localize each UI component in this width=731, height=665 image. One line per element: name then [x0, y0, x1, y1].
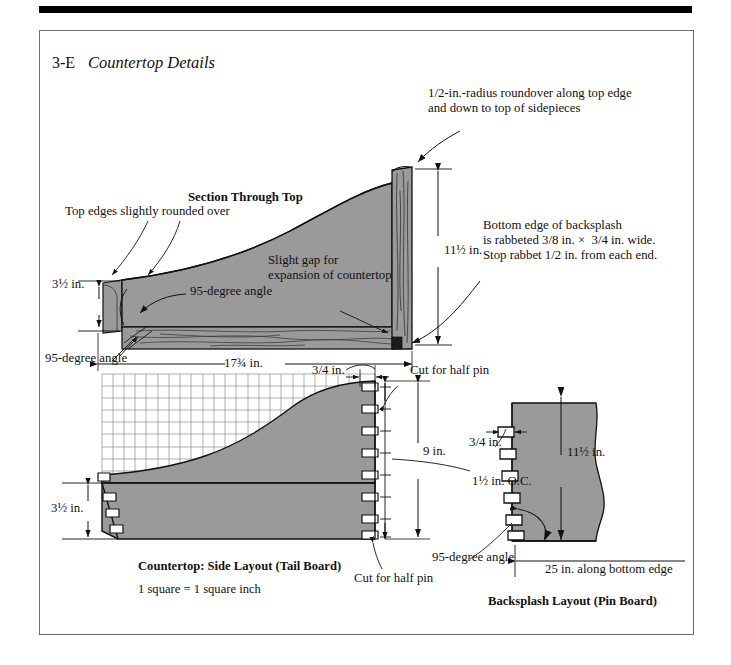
- figure-page: 3-E Countertop Details: [0, 0, 731, 665]
- dim-front-height-side: 3½ in.: [51, 501, 83, 516]
- angle-left-annotation: 95-degree angle: [190, 284, 272, 299]
- dim-tail-height: 9 in.: [423, 444, 446, 459]
- oc-tick-column: [380, 383, 391, 539]
- bottom-edge-dim: 25 in. along bottom edge: [545, 562, 673, 577]
- backsplash-pin-width-label: 3/4 in.: [469, 435, 502, 450]
- figure-frame: 3-E Countertop Details: [39, 30, 694, 635]
- backsplash-layout-caption: Backsplash Layout (Pin Board): [488, 594, 657, 609]
- roundover-annotation: 1/2-in.-radius roundover along top edge …: [428, 86, 632, 116]
- section-heading: Section Through Top: [188, 190, 303, 205]
- dim-depth: 17¾ in.: [224, 356, 263, 371]
- spacing-label: 1½ in. O.C.: [472, 474, 532, 489]
- backsplash-height-dim: 11½ in.: [567, 445, 605, 460]
- section-through-top-drawing: [78, 131, 480, 371]
- pin-width-top-label: 3/4 in.: [312, 363, 345, 378]
- technical-drawing: [40, 31, 693, 634]
- dim-backsplash-height: 11½ in.: [444, 243, 482, 258]
- top-edges-annotation: Top edges slightly rounded over: [65, 204, 230, 219]
- side-layout-caption: Countertop: Side Layout (Tail Board): [138, 559, 341, 574]
- side-layout-scale: 1 square = 1 square inch: [138, 582, 261, 597]
- angle-below-annotation: 95-degree angle: [45, 351, 127, 366]
- rabbet-annotation: Bottom edge of backsplash is rabbeted 3/…: [483, 218, 657, 263]
- dim-front-height: 3½ in.: [52, 277, 84, 292]
- gap-annotation: Slight gap for expansion of countertop: [268, 253, 392, 283]
- half-pin-top-label: Cut for half pin: [410, 363, 489, 378]
- header-rule: [39, 6, 692, 13]
- backsplash-angle-label: 95-degree angle: [432, 550, 514, 565]
- half-pin-bottom-label: Cut for half pin: [354, 571, 433, 586]
